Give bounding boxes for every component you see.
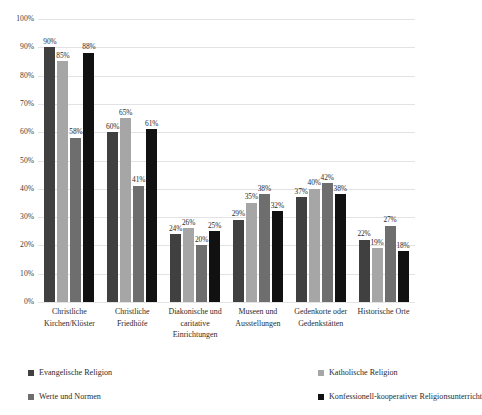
bar[interactable] — [309, 189, 320, 302]
legend-item[interactable]: Werte und Normen — [28, 392, 318, 401]
bar-value-label: 24% — [169, 224, 182, 233]
bar[interactable] — [196, 245, 207, 302]
x-axis-category-label: Diakonische und caritative Einrichtungen — [164, 306, 227, 341]
bar-value-label: 38% — [334, 184, 347, 193]
bar-value-label: 25% — [208, 221, 221, 230]
bar-group-bars: 60%65%41%61% — [101, 19, 164, 302]
bar[interactable] — [133, 186, 144, 302]
bar-value-label: 27% — [383, 215, 396, 224]
bar[interactable] — [296, 197, 307, 302]
bar-slot: 35% — [246, 19, 257, 302]
chart-legend: Evangelische ReligionKatholische Religio… — [28, 368, 408, 401]
bar-value-label: 58% — [69, 127, 82, 136]
bar-value-label: 60% — [106, 122, 119, 131]
bar[interactable] — [170, 234, 181, 302]
legend-label: Werte und Normen — [39, 392, 101, 401]
bar-group-bars: 90%85%58%88% — [38, 19, 101, 302]
bar-group-bars: 29%35%38%32% — [226, 19, 289, 302]
bar[interactable] — [83, 53, 94, 302]
x-axis-category-label: Historische Orte — [352, 306, 415, 341]
bar-value-label: 35% — [245, 192, 258, 201]
legend-item[interactable]: Katholische Religion — [318, 368, 482, 377]
bar-slot: 29% — [233, 19, 244, 302]
bar-group: 29%35%38%32% — [226, 19, 289, 302]
bar-slot: 26% — [183, 19, 194, 302]
clipped-chart-title — [60, 0, 260, 4]
bar-slot: 65% — [120, 19, 131, 302]
bar-group: 90%85%58%88% — [38, 19, 101, 302]
bar-slot: 90% — [44, 19, 55, 302]
bar-group: 60%65%41%61% — [101, 19, 164, 302]
bar[interactable] — [385, 226, 396, 302]
bar-value-label: 38% — [258, 184, 271, 193]
legend-swatch — [28, 370, 34, 376]
bar[interactable] — [335, 194, 346, 302]
bar-value-label: 42% — [321, 173, 334, 182]
bar-slot: 38% — [259, 19, 270, 302]
bar-value-label: 40% — [308, 178, 321, 187]
bar[interactable] — [246, 203, 257, 302]
bar-group-bars: 24%26%20%25% — [164, 19, 227, 302]
bar-group-bars: 22%19%27%18% — [352, 19, 415, 302]
y-axis-tick-label: 50% — [0, 156, 34, 165]
bar-slot: 42% — [322, 19, 333, 302]
bar-value-label: 26% — [182, 218, 195, 227]
bar[interactable] — [57, 61, 68, 302]
bar-value-label: 18% — [396, 241, 409, 250]
legend-label: Katholische Religion — [329, 368, 398, 377]
plot-area: 100%90%80%70%60%50%40%30%20%10%0%90%85%5… — [38, 19, 415, 302]
bar[interactable] — [259, 194, 270, 302]
legend-swatch — [318, 370, 324, 376]
bar-value-label: 29% — [232, 209, 245, 218]
y-axis-tick-label: 10% — [0, 269, 34, 278]
bar-value-label: 90% — [43, 37, 56, 46]
bar-group-bars: 37%40%42%38% — [289, 19, 352, 302]
legend-swatch — [318, 394, 324, 400]
y-axis-tick-label: 80% — [0, 71, 34, 80]
bar-slot: 19% — [372, 19, 383, 302]
legend-item[interactable]: Evangelische Religion — [28, 368, 318, 377]
bar[interactable] — [359, 240, 370, 302]
bar-slot: 60% — [107, 19, 118, 302]
legend-label: Konfessionell-kooperativer Religionsunte… — [329, 392, 482, 401]
bar-slot: 24% — [170, 19, 181, 302]
legend-item[interactable]: Konfessionell-kooperativer Religionsunte… — [318, 392, 482, 401]
bar-group: 37%40%42%38% — [289, 19, 352, 302]
x-axis-category-labels: Christliche Kirchen/KlösterChristliche F… — [38, 306, 415, 341]
bar-slot: 61% — [146, 19, 157, 302]
bar[interactable] — [372, 248, 383, 302]
bar-group: 22%19%27%18% — [352, 19, 415, 302]
bar-slot: 32% — [272, 19, 283, 302]
bar[interactable] — [146, 129, 157, 302]
bar-slot: 25% — [209, 19, 220, 302]
bar-value-label: 61% — [145, 119, 158, 128]
legend-label: Evangelische Religion — [39, 368, 112, 377]
y-axis-tick-label: 40% — [0, 184, 34, 193]
bar-value-label: 20% — [195, 235, 208, 244]
bar-value-label: 85% — [56, 51, 69, 60]
bar[interactable] — [120, 118, 131, 302]
bar-slot: 85% — [57, 19, 68, 302]
y-axis-tick-label: 0% — [0, 297, 34, 306]
bar[interactable] — [322, 183, 333, 302]
y-axis-tick-label: 90% — [0, 42, 34, 51]
bar[interactable] — [70, 138, 81, 302]
bar[interactable] — [209, 231, 220, 302]
bar-slot: 27% — [385, 19, 396, 302]
x-axis-category-label: Christliche Friedhöfe — [101, 306, 164, 341]
bar-slot: 40% — [309, 19, 320, 302]
bar[interactable] — [107, 132, 118, 302]
bar[interactable] — [183, 228, 194, 302]
bar[interactable] — [398, 251, 409, 302]
x-axis-category-label: Museen und Ausstellungen — [226, 306, 289, 341]
bar-value-label: 37% — [295, 187, 308, 196]
bar-slot: 20% — [196, 19, 207, 302]
y-axis-tick-label: 60% — [0, 127, 34, 136]
legend-swatch — [28, 394, 34, 400]
bar[interactable] — [272, 211, 283, 302]
bar[interactable] — [44, 47, 55, 302]
bar[interactable] — [233, 220, 244, 302]
bar-slot: 22% — [359, 19, 370, 302]
x-axis-category-label: Christliche Kirchen/Klöster — [38, 306, 101, 341]
